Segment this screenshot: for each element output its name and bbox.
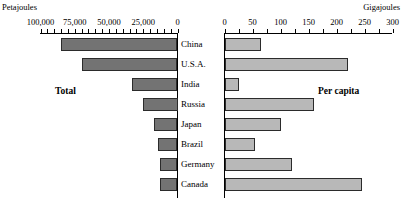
left-axis-tick-mark <box>171 29 172 33</box>
right-axis-tick-mark <box>337 29 338 33</box>
left-axis-tick-mark <box>178 29 179 33</box>
right-axis-tick-label: 100 <box>274 18 287 27</box>
right-axis-tick-mark <box>365 29 366 33</box>
left-axis-tick-mark <box>54 29 55 33</box>
right-axis-line <box>224 33 392 34</box>
left-axis-tick-mark <box>47 29 48 33</box>
right-axis-tick-label: 250 <box>358 18 371 27</box>
right-axis-tick-mark <box>393 29 394 33</box>
left-axis-tick-mark <box>68 29 69 33</box>
per-capita-bar <box>225 98 315 111</box>
right-axis-tick-mark <box>225 29 226 33</box>
per-capita-bar <box>225 178 362 191</box>
category-label: Germany <box>181 159 223 170</box>
right-axis-tick-mark <box>323 29 324 33</box>
left-axis-tick-mark <box>136 29 137 33</box>
per-capita-bar <box>225 38 261 51</box>
left-axis-tick-mark <box>157 29 158 33</box>
left-axis-tick-mark <box>130 29 131 33</box>
left-axis-tick-mark <box>116 29 117 33</box>
left-axis-tick-mark <box>143 29 144 33</box>
category-label: U.S.A. <box>181 59 223 70</box>
left-axis-tick-mark <box>82 29 83 33</box>
left-axis-tick-mark <box>123 29 124 33</box>
right-axis-tick-mark <box>281 29 282 33</box>
left-axis-tick-mark <box>61 29 62 33</box>
right-axis-tick-mark <box>267 29 268 33</box>
left-axis-tick-label: 100,000 <box>27 18 55 27</box>
left-axis-line <box>40 33 178 34</box>
right-axis-tick-mark <box>351 29 352 33</box>
right-axis-tick-mark <box>295 29 296 33</box>
right-axis-tick-label: 200 <box>330 18 343 27</box>
right-axis-tick-label: 300 <box>386 18 399 27</box>
left-axis-tick-mark <box>95 29 96 33</box>
right-axis-tick-mark <box>253 29 254 33</box>
category-label: India <box>181 79 223 90</box>
total-panel-caption: Total <box>55 86 76 97</box>
per-capita-bar <box>225 158 292 171</box>
right-axis-tick-mark <box>379 29 380 33</box>
per-capita-bar <box>225 118 281 131</box>
left-axis-tick-mark <box>75 29 76 33</box>
per-capita-bar <box>225 78 239 91</box>
left-axis-tick-mark <box>88 29 89 33</box>
left-axis-tick-mark <box>164 29 165 33</box>
right-axis-unit-label: Gigajoules <box>363 2 400 12</box>
left-axis-tick-mark <box>41 29 42 33</box>
category-label: Russia <box>181 99 223 110</box>
per-capita-bar <box>225 58 348 71</box>
left-axis-tick-mark <box>102 29 103 33</box>
left-axis-tick-label: 25,000 <box>132 18 155 27</box>
per-capita-bar <box>225 138 256 151</box>
per-capita-panel-caption: Per capita <box>318 86 359 97</box>
category-label: Brazil <box>181 139 223 150</box>
left-axis-unit-label: Petajoules <box>2 2 37 12</box>
left-axis-tick-label: 0 <box>175 18 179 27</box>
category-label: China <box>181 39 223 50</box>
left-axis-tick-mark <box>150 29 151 33</box>
right-axis-tick-mark <box>239 29 240 33</box>
right-axis-tick-label: 150 <box>302 18 315 27</box>
energy-consumption-chart: Petajoules Gigajoules 100,00075,00050,00… <box>0 0 403 204</box>
right-axis-tick-label: 50 <box>248 18 257 27</box>
right-axis-tick-mark <box>309 29 310 33</box>
right-axis-tick-label: 0 <box>222 18 226 27</box>
category-label: Canada <box>181 179 223 190</box>
left-axis-tick-mark <box>109 29 110 33</box>
left-axis-tick-label: 50,000 <box>97 18 120 27</box>
category-label: Japan <box>181 119 223 130</box>
left-axis-tick-label: 75,000 <box>63 18 86 27</box>
